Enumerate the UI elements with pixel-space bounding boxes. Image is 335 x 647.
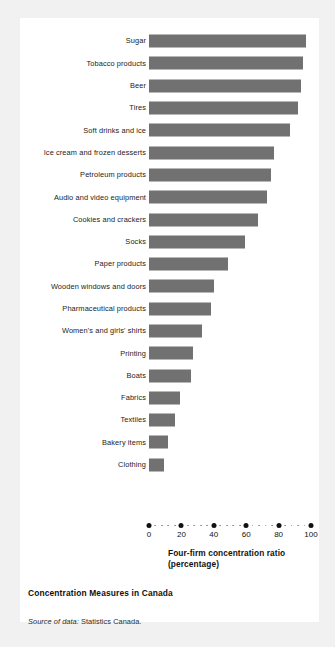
bar-category-label: Women's and girls' shirts xyxy=(20,327,149,334)
axis-major-tick xyxy=(244,523,249,528)
bar xyxy=(149,369,191,382)
bar-category-label: Cookies and crackers xyxy=(20,216,149,223)
bar-category-label: Tires xyxy=(20,104,149,111)
bar-track xyxy=(149,275,319,297)
x-axis-title: Four-firm concentration ratio (percentag… xyxy=(168,548,318,570)
bar-track xyxy=(149,342,319,364)
bar xyxy=(149,79,301,92)
axis-tick-label: 80 xyxy=(274,530,283,539)
bar-track xyxy=(149,119,319,141)
bar-track xyxy=(149,231,319,253)
bar-category-label: Printing xyxy=(20,350,149,357)
bar-track xyxy=(149,97,319,119)
bar-track xyxy=(149,454,319,476)
axis-major-tick xyxy=(179,523,184,528)
bar-track xyxy=(149,364,319,386)
bar-row: Soft drinks and ice xyxy=(20,119,319,141)
bar-track xyxy=(149,52,319,74)
bar-category-label: Bakery items xyxy=(20,439,149,446)
bar-row: Printing xyxy=(20,342,319,364)
axis-minor-tick xyxy=(291,525,293,527)
bar-row: Tires xyxy=(20,97,319,119)
bar-row: Pharmaceutical products xyxy=(20,298,319,320)
axis-minor-tick xyxy=(297,525,299,527)
bar-row: Textiles xyxy=(20,409,319,431)
bar-row: Fabrics xyxy=(20,387,319,409)
bar-category-label: Socks xyxy=(20,238,149,245)
bar-row: Women's and girls' shirts xyxy=(20,320,319,342)
axis-major-tick xyxy=(147,523,152,528)
axis-tick-label: 60 xyxy=(242,530,251,539)
bar-category-label: Wooden windows and doors xyxy=(20,283,149,290)
bar-row: Cookies and crackers xyxy=(20,208,319,230)
figure-panel: SugarTobacco productsBeerTiresSoft drink… xyxy=(20,18,319,622)
axis-minor-tick xyxy=(187,525,189,527)
bar-category-label: Audio and video equipment xyxy=(20,194,149,201)
axis-tick-label: 100 xyxy=(304,530,317,539)
bar-row: Boats xyxy=(20,364,319,386)
figure-title: Concentration Measures in Canada xyxy=(28,588,173,598)
axis-minor-tick xyxy=(219,525,221,527)
x-axis-ticks: 020406080100 xyxy=(149,523,311,531)
axis-minor-tick xyxy=(161,525,163,527)
bar xyxy=(149,235,245,248)
axis-minor-tick xyxy=(265,525,267,527)
bar xyxy=(149,57,303,70)
bar-track xyxy=(149,186,319,208)
x-axis-title-line1: Four-firm concentration ratio xyxy=(168,548,318,559)
bar-category-label: Beer xyxy=(20,82,149,89)
axis-minor-tick xyxy=(200,525,202,527)
bar-track xyxy=(149,320,319,342)
bar-track xyxy=(149,164,319,186)
axis-minor-tick xyxy=(252,525,254,527)
axis-minor-tick xyxy=(271,525,273,527)
bar-track xyxy=(149,387,319,409)
page-background: SugarTobacco productsBeerTiresSoft drink… xyxy=(0,0,335,647)
bar-category-label: Clothing xyxy=(20,461,149,468)
bar-track xyxy=(149,141,319,163)
bar xyxy=(149,347,193,360)
bar-track xyxy=(149,208,319,230)
axis-major-tick xyxy=(211,523,216,528)
axis-minor-tick xyxy=(206,525,208,527)
bar-category-label: Soft drinks and ice xyxy=(20,127,149,134)
bar-row: Bakery items xyxy=(20,431,319,453)
bar-row: Clothing xyxy=(20,454,319,476)
bar xyxy=(149,191,267,204)
bar xyxy=(149,102,298,115)
bar-category-label: Sugar xyxy=(20,37,149,44)
axis-minor-tick xyxy=(155,525,157,527)
source-value: Statistics Canada. xyxy=(79,617,142,626)
bar-row: Audio and video equipment xyxy=(20,186,319,208)
bar-track xyxy=(149,298,319,320)
bar-track xyxy=(149,30,319,52)
bar-row: Wooden windows and doors xyxy=(20,275,319,297)
axis-minor-tick xyxy=(232,525,234,527)
bar-track xyxy=(149,431,319,453)
bar-category-label: Petroleum products xyxy=(20,171,149,178)
bar xyxy=(149,213,258,226)
bar-row: Paper products xyxy=(20,253,319,275)
bar xyxy=(149,436,168,449)
bar-track xyxy=(149,75,319,97)
bar xyxy=(149,258,228,271)
figure-source: Source of data: Statistics Canada. xyxy=(28,617,141,626)
bar-row: Petroleum products xyxy=(20,164,319,186)
axis-minor-tick xyxy=(174,525,176,527)
bar-category-label: Paper products xyxy=(20,260,149,267)
bar-row: Ice cream and frozen desserts xyxy=(20,141,319,163)
axis-minor-tick xyxy=(239,525,241,527)
bar-category-label: Tobacco products xyxy=(20,60,149,67)
bar-category-label: Textiles xyxy=(20,416,149,423)
bar-row: Sugar xyxy=(20,30,319,52)
bar-category-label: Boats xyxy=(20,372,149,379)
bar-category-label: Pharmaceutical products xyxy=(20,305,149,312)
bar xyxy=(149,391,180,404)
bar xyxy=(149,146,274,159)
bar-track xyxy=(149,253,319,275)
axis-tick-label: 0 xyxy=(147,530,151,539)
bar-track xyxy=(149,409,319,431)
axis-minor-tick xyxy=(193,525,195,527)
bar xyxy=(149,35,306,48)
bar xyxy=(149,302,211,315)
